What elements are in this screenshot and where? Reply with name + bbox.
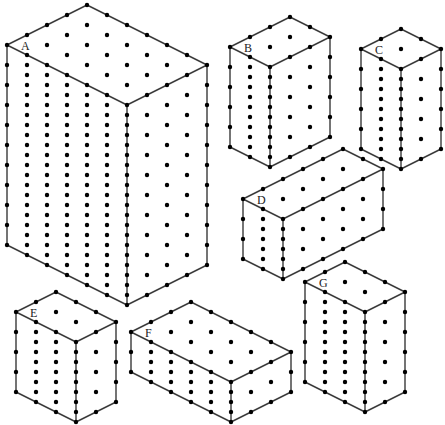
box-label: A <box>21 39 30 53</box>
box-label: E <box>30 306 37 320</box>
grid-dot <box>268 105 272 109</box>
grid-dot <box>125 283 129 287</box>
grid-dot <box>14 310 18 314</box>
grid-dot <box>65 133 69 137</box>
grid-dot <box>145 133 149 137</box>
grid-dot <box>85 133 89 137</box>
grid-dot <box>114 400 118 404</box>
grid-dot <box>185 273 189 277</box>
grid-dot <box>205 203 209 207</box>
grid-dot <box>74 340 78 344</box>
grid-dot <box>185 113 189 117</box>
grid-dot <box>248 105 252 109</box>
grid-dot <box>209 390 213 394</box>
grid-dot <box>288 55 292 59</box>
grid-dot <box>205 103 209 107</box>
grid-dot <box>261 227 265 231</box>
grid-dot <box>439 107 443 111</box>
grid-dot <box>228 45 232 49</box>
grid-dot <box>125 273 129 277</box>
grid-dot <box>169 350 173 354</box>
grid-dot <box>419 97 423 101</box>
grid-dot <box>363 360 367 364</box>
grid-dot <box>359 107 363 111</box>
grid-dot <box>288 135 292 139</box>
grid-dot <box>65 233 69 237</box>
grid-dot <box>308 45 312 49</box>
grid-dot <box>343 390 347 394</box>
grid-dot <box>165 263 169 267</box>
grid-dot <box>85 143 89 147</box>
grid-dot <box>261 247 265 251</box>
grid-dot <box>241 237 245 241</box>
grid-dot <box>301 207 305 211</box>
grid-dot <box>25 133 29 137</box>
grid-dot <box>248 65 252 69</box>
grid-dot <box>248 155 252 159</box>
cuboid-e: E <box>14 290 118 424</box>
grid-dot <box>85 153 89 157</box>
grid-dot <box>125 143 129 147</box>
grid-dot <box>383 320 387 324</box>
grid-dot <box>403 370 407 374</box>
grid-dot <box>343 380 347 384</box>
grid-dot <box>65 143 69 147</box>
grid-dot <box>45 63 49 67</box>
box-label: B <box>244 41 252 55</box>
grid-dot <box>169 330 173 334</box>
grid-dot <box>303 280 307 284</box>
grid-dot <box>125 203 129 207</box>
grid-dot <box>74 320 78 324</box>
grid-dot <box>45 103 49 107</box>
grid-dot <box>288 35 292 39</box>
grid-dot <box>383 340 387 344</box>
grid-dot <box>169 380 173 384</box>
grid-dot <box>399 127 403 131</box>
grid-dot <box>323 310 327 314</box>
grid-dot <box>45 93 49 97</box>
grid-dot <box>419 57 423 61</box>
grid-dot <box>25 253 29 257</box>
grid-dot <box>403 350 407 354</box>
grid-dot <box>45 163 49 167</box>
grid-dot <box>105 193 109 197</box>
grid-dot <box>281 227 285 231</box>
grid-dot <box>321 257 325 261</box>
grid-dot <box>85 43 89 47</box>
grid-dot <box>5 43 9 47</box>
grid-dot <box>65 253 69 257</box>
grid-dot <box>328 35 332 39</box>
grid-dot <box>114 320 118 324</box>
grid-dot <box>228 105 232 109</box>
grid-dot <box>301 267 305 271</box>
grid-dot <box>359 147 363 151</box>
grid-dot <box>149 380 153 384</box>
grid-dot <box>288 15 292 19</box>
grid-dot <box>308 85 312 89</box>
cuboid-d: D <box>241 147 385 281</box>
grid-dot <box>149 350 153 354</box>
grid-dot <box>343 330 347 334</box>
grid-dot <box>379 87 383 91</box>
grid-dot <box>85 243 89 247</box>
grid-dot <box>281 197 285 201</box>
grid-dot <box>85 273 89 277</box>
grid-dot <box>341 247 345 251</box>
grid-dot <box>185 93 189 97</box>
grid-dot <box>268 45 272 49</box>
grid-dot <box>94 390 98 394</box>
grid-dot <box>25 73 29 77</box>
grid-dot <box>399 47 403 51</box>
grid-dot <box>323 350 327 354</box>
grid-dot <box>209 370 213 374</box>
grid-dot <box>105 293 109 297</box>
grid-dot <box>125 113 129 117</box>
grid-dot <box>165 63 169 67</box>
grid-dot <box>25 213 29 217</box>
grid-dot <box>25 63 29 67</box>
grid-dot <box>308 65 312 69</box>
grid-dot <box>248 135 252 139</box>
grid-dot <box>145 173 149 177</box>
grid-dot <box>114 380 118 384</box>
grid-dot <box>399 87 403 91</box>
